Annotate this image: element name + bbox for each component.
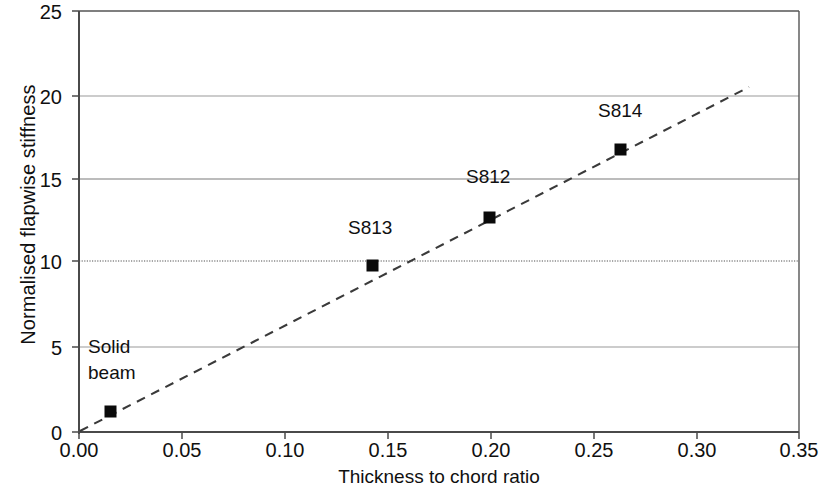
x-axis-title: Thickness to chord ratio [79,466,799,488]
chart-plot-area [0,0,826,495]
y-tick-label-25: 25 [6,2,62,22]
y-axis-title: Normalised flapwise stiffness [17,45,40,385]
chart-figure: 25 20 15 10 5 0 0.00 0.05 0.10 0.15 0.20… [0,0,826,495]
data-point-s812 [484,212,496,224]
annotation-solid-beam-line1: Solid [88,336,130,358]
x-tick-label-0: 0.00 [34,440,124,460]
x-tick-label-5: 0.25 [549,440,639,460]
x-tick-label-3: 0.15 [343,440,433,460]
annotation-s812: S812 [466,166,510,188]
x-tick-label-6: 0.30 [652,440,742,460]
annotation-solid-beam-line2: beam [88,362,136,384]
data-point-s814 [615,144,627,156]
x-tick-label-1: 0.05 [137,440,227,460]
annotation-s814: S814 [598,100,642,122]
x-tick-label-7: 0.35 [754,440,826,460]
annotation-s813: S813 [348,217,392,239]
trendline-dashed [80,87,749,431]
data-point-solid-beam [105,406,117,418]
x-tick-label-2: 0.10 [240,440,330,460]
x-tick-label-4: 0.20 [446,440,536,460]
data-point-s813 [367,260,379,272]
